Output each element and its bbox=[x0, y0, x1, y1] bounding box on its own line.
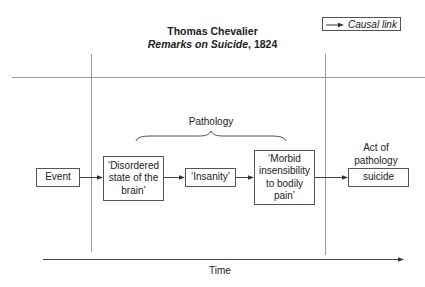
node-morbid-line3: to bodily bbox=[266, 178, 303, 191]
pathology-brace bbox=[136, 131, 286, 141]
node-disordered-line3: brain’ bbox=[121, 185, 145, 198]
diagram-subtitle: Remarks on Suicide, 1824 bbox=[0, 38, 425, 50]
subtitle-year: , 1824 bbox=[248, 38, 277, 50]
subtitle-book-title: Remarks on Suicide bbox=[148, 38, 248, 50]
node-suicide: suicide bbox=[348, 168, 409, 187]
legend-label: Causal link bbox=[348, 19, 397, 30]
act-label-line2: pathology bbox=[336, 155, 416, 168]
node-event: Event bbox=[36, 168, 80, 187]
act-label-line1: Act of bbox=[336, 142, 416, 155]
node-disordered-brain: ‘Disordered state of the brain’ bbox=[103, 156, 164, 201]
node-morbid-line1: ‘Morbid bbox=[268, 153, 301, 166]
node-event-label: Event bbox=[45, 171, 71, 184]
arrow-right-icon bbox=[326, 20, 344, 28]
act-of-pathology-label: Act of pathology bbox=[336, 142, 416, 167]
node-morbid-line2: insensibility bbox=[259, 165, 310, 178]
node-insanity: ‘Insanity’ bbox=[185, 168, 236, 187]
time-axis-label: Time bbox=[190, 265, 250, 278]
node-disordered-line1: ‘Disordered bbox=[108, 160, 159, 173]
node-suicide-label: suicide bbox=[363, 171, 394, 184]
node-morbid-line4: pain’ bbox=[274, 190, 295, 203]
node-disordered-line2: state of the bbox=[109, 172, 158, 185]
pathology-label: Pathology bbox=[166, 116, 256, 129]
node-insanity-label: ‘Insanity’ bbox=[191, 171, 230, 184]
legend-box: Causal link bbox=[322, 17, 401, 31]
node-morbid-insensibility: ‘Morbid insensibility to bodily pain’ bbox=[254, 150, 315, 205]
